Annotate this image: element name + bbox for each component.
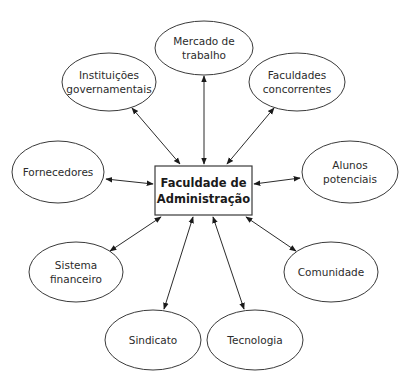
label-line: Sistema — [50, 258, 102, 272]
label-sistema: Sistema financeiro — [50, 258, 102, 286]
edge-alunos — [254, 178, 300, 184]
label-fornecedores: Fornecedores — [23, 165, 94, 179]
label-line: Faculdades — [263, 68, 331, 82]
label-line: Fornecedores — [23, 165, 94, 179]
center-label-line: Administração — [157, 191, 250, 207]
label-tecnologia: Tecnologia — [227, 333, 282, 347]
label-line: Instituições — [66, 68, 151, 82]
label-line: Comunidade — [298, 265, 364, 279]
edge-sistema — [110, 217, 161, 251]
label-line: concorrentes — [263, 82, 331, 96]
edge-fornecedores — [106, 179, 153, 184]
label-alunos: Alunos potenciais — [323, 158, 377, 186]
label-line: Alunos — [323, 158, 377, 172]
label-line: Sindicato — [129, 333, 178, 347]
label-instituicoes: Instituições governamentais — [66, 68, 151, 96]
label-line: trabalho — [173, 48, 234, 62]
label-sindicato: Sindicato — [129, 333, 178, 347]
label-faculdades: Faculdades concorrentes — [263, 68, 331, 96]
label-line: Mercado de — [173, 34, 234, 48]
label-line: governamentais — [66, 82, 151, 96]
edge-comunidade — [246, 217, 296, 251]
label-mercado: Mercado de trabalho — [173, 34, 234, 62]
center-label: Faculdade de Administração — [157, 175, 250, 207]
edge-tecnologia — [213, 217, 244, 309]
center-label-line: Faculdade de — [157, 175, 250, 191]
edge-instituicoes — [132, 108, 180, 164]
label-comunidade: Comunidade — [298, 265, 364, 279]
edge-sindicato — [164, 217, 193, 309]
label-line: potenciais — [323, 172, 377, 186]
label-line: financeiro — [50, 272, 102, 286]
label-line: Tecnologia — [227, 333, 282, 347]
edge-faculdades — [227, 108, 274, 164]
